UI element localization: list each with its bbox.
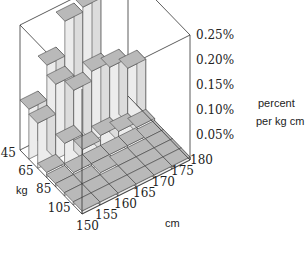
box-edge xyxy=(128,0,190,35)
z-tick-label: 0.15% xyxy=(196,78,234,92)
z-axis-title-line2: per kg cm xyxy=(256,115,304,127)
x-axis-title: cm xyxy=(165,217,180,229)
z-axis-title-line1: percent xyxy=(258,97,295,109)
z-tick-label: 0.10% xyxy=(196,103,234,117)
z-tick-label: 0.20% xyxy=(196,53,234,67)
y-tick-label: 45 xyxy=(1,146,16,160)
x-tick-label: 180 xyxy=(190,153,213,167)
y-tick-label: 85 xyxy=(36,182,51,196)
y-tick-label: 65 xyxy=(18,164,33,178)
y-axis-title: kg xyxy=(16,184,28,196)
y-tick-label: 105 xyxy=(48,201,71,215)
3d-histogram-chart: 1501551601651701751804565851050.05%0.10%… xyxy=(0,0,308,260)
z-tick-label: 0.25% xyxy=(196,28,234,42)
z-tick-label: 0.05% xyxy=(196,128,234,142)
